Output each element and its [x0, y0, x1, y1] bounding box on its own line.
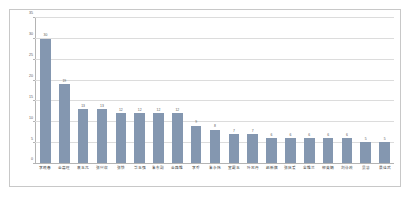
x-axis-label-slot: 朱永炜	[206, 166, 225, 182]
bar-rect[interactable]	[323, 138, 334, 163]
x-axis-category-label: 金嘉旺	[58, 166, 70, 170]
bar-rect[interactable]	[78, 109, 89, 163]
x-axis-category-label: 赵新旗	[266, 166, 278, 170]
x-axis-label-slot: 毕玉强	[130, 166, 149, 182]
x-axis-category-label: 刘泳政	[341, 166, 353, 170]
bar-item[interactable]: 6	[338, 18, 357, 163]
bar-series: 301913131212121298776666655	[36, 18, 394, 163]
bar-item[interactable]: 12	[168, 18, 187, 163]
x-axis-label-slot: 叶忠丹	[243, 166, 262, 182]
x-axis-category-label: 全维兰	[303, 166, 315, 170]
bar-item[interactable]: 5	[375, 18, 394, 163]
x-axis-label-slot: 朱东副	[149, 166, 168, 182]
bar-rect[interactable]	[285, 138, 296, 163]
bar-item[interactable]: 13	[74, 18, 93, 163]
bar-item[interactable]: 12	[111, 18, 130, 163]
y-axis-tick-mark	[33, 100, 35, 101]
bar-item[interactable]: 7	[224, 18, 243, 163]
bar-value-label: 5	[384, 138, 386, 141]
y-axis-tick-label: 10	[29, 117, 33, 121]
x-axis-category-label: 朱永炜	[209, 166, 221, 170]
x-axis-label-slot: 张兴収	[93, 166, 112, 182]
bar-rect[interactable]	[40, 39, 51, 163]
x-axis-label-slot: 柳英娟	[319, 166, 338, 182]
x-axis-label-slot: 张铁	[111, 166, 130, 182]
bar-rect[interactable]	[360, 142, 371, 163]
y-axis-tick-label: 5	[31, 138, 33, 142]
plot-area: 05101520253035 3019131312121212987766666…	[35, 18, 394, 164]
x-axis-category-label: 金路维	[171, 166, 183, 170]
bar-item[interactable]: 7	[243, 18, 262, 163]
bar-value-label: 12	[119, 109, 123, 112]
bar-value-label: 8	[214, 125, 216, 128]
x-axis-category-label: 柳英娟	[322, 166, 334, 170]
bar-rect[interactable]	[97, 109, 108, 163]
x-axis-label-slot: 赵新旗	[262, 166, 281, 182]
bar-item[interactable]: 6	[300, 18, 319, 163]
x-axis-label-slot: 金路维	[168, 166, 187, 182]
bar-value-label: 19	[62, 80, 66, 83]
y-axis-tick-label: 15	[29, 96, 33, 100]
bar-rect[interactable]	[247, 134, 258, 163]
bar-rect[interactable]	[304, 138, 315, 163]
bar-item[interactable]: 12	[149, 18, 168, 163]
bar-item[interactable]: 6	[262, 18, 281, 163]
bar-item[interactable]: 5	[356, 18, 375, 163]
bar-rect[interactable]	[379, 142, 390, 163]
x-axis-category-label: 张兴収	[96, 166, 108, 170]
x-axis-category-label: 李乔	[192, 166, 200, 170]
x-axis-category-label: 张庆爱	[284, 166, 296, 170]
x-axis-category-label: 袁玉兀	[77, 166, 89, 170]
y-axis-tick-mark	[33, 80, 35, 81]
bar-item[interactable]: 30	[36, 18, 55, 163]
x-axis-category-label: 景佳武	[379, 166, 391, 170]
x-axis-category-label: 朱东副	[152, 166, 164, 170]
y-axis-tick-mark	[33, 59, 35, 60]
x-axis-label-slot: 刘泳政	[338, 166, 357, 182]
gridline: 0	[35, 163, 394, 164]
bar-rect[interactable]	[116, 113, 127, 163]
x-axis-label-slot: 金嘉旺	[55, 166, 74, 182]
x-axis-category-label: 吴慧	[362, 166, 370, 170]
bar-value-label: 12	[138, 109, 142, 112]
x-axis-category-label: 张铁	[117, 166, 125, 170]
bar-value-label: 13	[81, 105, 85, 108]
bar-rect[interactable]	[153, 113, 164, 163]
x-axis-label-slot: 景佳武	[375, 166, 394, 182]
x-axis-label-slot: 李晓春	[36, 166, 55, 182]
bar-item[interactable]: 13	[93, 18, 112, 163]
y-axis-tick-label: 20	[29, 75, 33, 79]
bar-item[interactable]: 6	[281, 18, 300, 163]
bar-value-label: 6	[271, 134, 273, 137]
bar-item[interactable]: 8	[206, 18, 225, 163]
bar-rect[interactable]	[134, 113, 145, 163]
x-axis-category-label: 宣霞玉	[228, 166, 240, 170]
bar-item[interactable]: 9	[187, 18, 206, 163]
bar-item[interactable]: 19	[55, 18, 74, 163]
x-axis-category-label: 毕玉强	[134, 166, 146, 170]
bar-rect[interactable]	[210, 130, 221, 163]
y-axis-tick-label: 0	[31, 159, 33, 163]
bar-value-label: 9	[195, 121, 197, 124]
bar-rect[interactable]	[59, 84, 70, 163]
x-axis-category-label: 叶忠丹	[247, 166, 259, 170]
bar-value-label: 6	[327, 134, 329, 137]
bar-item[interactable]: 12	[130, 18, 149, 163]
bar-value-label: 13	[100, 105, 104, 108]
bar-rect[interactable]	[266, 138, 277, 163]
bar-value-label: 12	[157, 109, 161, 112]
y-axis-tick-mark	[33, 121, 35, 122]
x-axis-label-slot: 张庆爱	[281, 166, 300, 182]
y-axis-tick-mark	[33, 38, 35, 39]
y-axis-tick-label: 25	[29, 54, 33, 58]
bar-rect[interactable]	[229, 134, 240, 163]
bar-rect[interactable]	[191, 126, 202, 163]
bar-rect[interactable]	[342, 138, 353, 163]
bar-value-label: 6	[289, 134, 291, 137]
y-axis-tick-mark	[33, 17, 35, 18]
bar-item[interactable]: 6	[319, 18, 338, 163]
x-axis-label-slot: 袁玉兀	[74, 166, 93, 182]
bar-rect[interactable]	[172, 113, 183, 163]
x-axis-label-slot: 全维兰	[300, 166, 319, 182]
x-axis-label-slot: 吴慧	[356, 166, 375, 182]
